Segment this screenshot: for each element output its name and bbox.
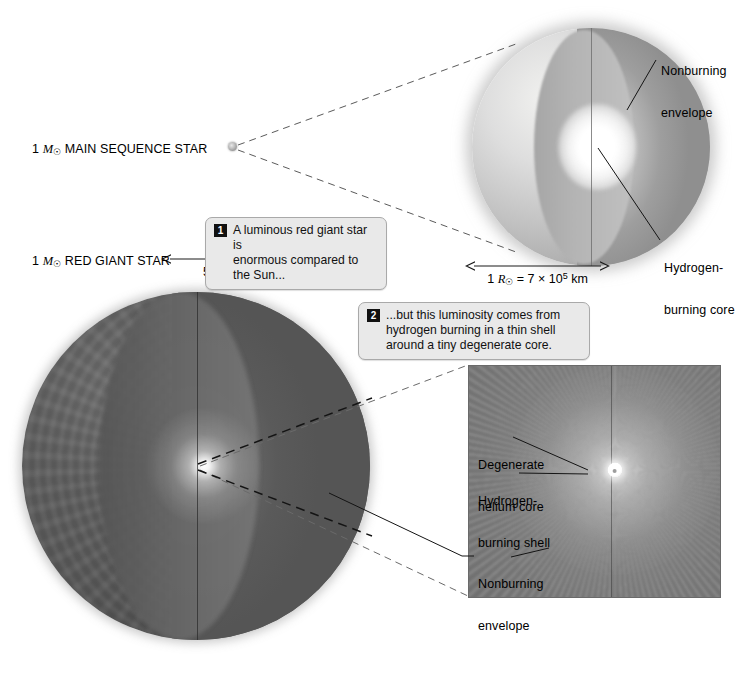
- ms-hydrogen-burning-core-label: Hydrogen- burning core: [664, 233, 735, 345]
- callout-1-line-2: enormous compared to the Sun...: [233, 253, 377, 283]
- main-sequence-hydrogen-burning-core: [558, 104, 636, 190]
- figure-canvas: 1 M☉ MAIN SEQUENCE STAR 1 M☉ RED GIANT S…: [0, 0, 754, 683]
- callout-1: 1 A luminous red giant star is enormous …: [205, 217, 387, 290]
- inset-core-center-dot: [612, 469, 616, 473]
- ms-scale-unit: km: [568, 272, 588, 286]
- callout-2-text: ...but this luminosity comes from hydrog…: [386, 308, 560, 353]
- callout-2-line-1: ...but this luminosity comes from: [386, 308, 560, 323]
- main-sequence-star-dot: [228, 142, 237, 151]
- callout-2-badge: 2: [367, 309, 380, 322]
- ms-scale-prefix: 1: [487, 272, 497, 286]
- ms-hydrogen-core-line-2: burning core: [664, 303, 735, 317]
- red-giant-star-label: 1 M☉ RED GIANT STAR: [32, 254, 170, 271]
- red-giant-cutaway-sphere: [22, 292, 370, 640]
- main-sequence-star-label: 1 M☉ MAIN SEQUENCE STAR: [32, 142, 207, 159]
- callout-2-line-2: hydrogen burning in a thin shell: [386, 323, 560, 338]
- callout-1-line-1: A luminous red giant star is: [233, 223, 377, 253]
- callout-2: 2 ...but this luminosity comes from hydr…: [358, 302, 590, 360]
- callout-1-badge: 1: [214, 224, 227, 237]
- ms-hydrogen-core-line-1: Hydrogen-: [664, 261, 735, 275]
- rg-label-symbol: M: [43, 254, 54, 268]
- ms-label-symbol: M: [43, 142, 54, 156]
- ms-scale-equals: = 7 × 10: [513, 272, 562, 286]
- red-giant-cut-wedge: [22, 292, 370, 640]
- ms-label-prefix: 1: [32, 142, 43, 156]
- ms-nonburning-envelope-line-2: envelope: [661, 106, 727, 120]
- ms-nonburning-envelope-label: Nonburning envelope: [661, 36, 727, 148]
- red-giant-core-glow: [144, 406, 264, 526]
- hydrogen-shell-line-2: burning shell: [478, 536, 550, 550]
- rg-label-prefix: 1: [32, 254, 43, 268]
- ms-nonburning-envelope-line-1: Nonburning: [661, 64, 727, 78]
- ms-label-text: MAIN SEQUENCE STAR: [61, 142, 207, 156]
- main-sequence-scale-caption: 1 R☉ = 7 × 105 km: [472, 271, 603, 287]
- inset-nonburning-line-1: Nonburning: [478, 577, 544, 591]
- inset-nonburning-envelope-label: Nonburning envelope: [478, 549, 544, 661]
- inset-axis-line: [611, 366, 612, 597]
- red-giant-axis-line: [197, 292, 198, 640]
- main-sequence-axis-line: [591, 28, 592, 266]
- hydrogen-shell-line-1: Hydrogen-: [478, 494, 550, 508]
- callout-1-text: A luminous red giant star is enormous co…: [233, 223, 377, 283]
- callout-2-line-3: around a tiny degenerate core.: [386, 338, 560, 353]
- rg-label-text: RED GIANT STAR: [61, 254, 170, 268]
- inset-nonburning-line-2: envelope: [478, 619, 544, 633]
